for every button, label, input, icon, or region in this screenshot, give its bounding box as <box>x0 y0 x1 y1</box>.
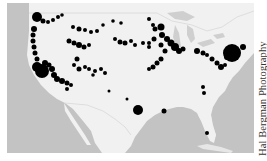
map-frame[interactable] <box>7 3 254 153</box>
us-map[interactable] <box>7 3 254 153</box>
photo-credit: Hal Bergman Photography <box>257 41 267 156</box>
